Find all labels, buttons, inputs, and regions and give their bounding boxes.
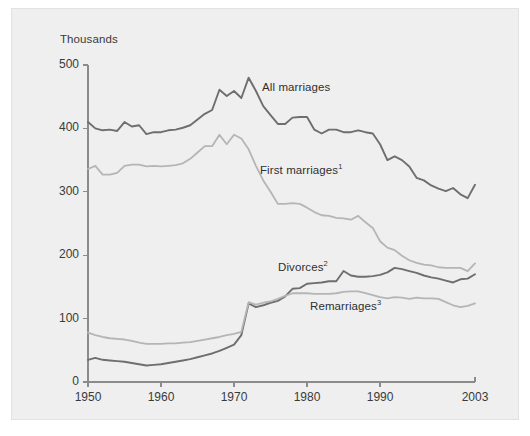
footnote-marker-1: 1 — [338, 162, 342, 171]
series-label-first-marriages: First marriages1 — [260, 164, 342, 176]
x-tick-label: 2003 — [445, 390, 505, 404]
x-tick-label: 1990 — [350, 390, 410, 404]
series-label-divorces: Divorces2 — [278, 261, 328, 273]
footnote-marker-2: 2 — [324, 259, 328, 268]
series-label-text: Remarriages — [310, 300, 377, 312]
x-tick-label: 1960 — [131, 390, 191, 404]
y-tick-label: 100 — [59, 311, 79, 325]
series-lines — [88, 78, 475, 366]
series-line — [88, 268, 475, 366]
y-tick-label: 300 — [59, 184, 79, 198]
x-tick-label: 1970 — [204, 390, 264, 404]
y-tick-label: 400 — [59, 120, 79, 134]
series-line — [88, 78, 475, 198]
axis-lines — [83, 65, 475, 387]
series-label-text: Divorces — [278, 261, 324, 273]
series-line — [88, 135, 475, 271]
footnote-marker-3: 3 — [377, 298, 381, 307]
y-tick-label: 500 — [59, 57, 79, 71]
series-label-text: First marriages — [260, 164, 338, 176]
chart-canvas — [0, 0, 530, 436]
y-tick-label: 0 — [72, 374, 79, 388]
chart-figure: Thousands 0100200300400500 1950196019701… — [0, 0, 530, 436]
series-label-text: All marriages — [262, 81, 330, 93]
x-tick-label: 1980 — [277, 390, 337, 404]
series-label-all-marriages: All marriages — [262, 81, 330, 93]
series-label-remarriages: Remarriages3 — [310, 300, 381, 312]
x-tick-label: 1950 — [58, 390, 118, 404]
y-tick-label: 200 — [59, 247, 79, 261]
y-axis-unit-label: Thousands — [60, 33, 118, 45]
